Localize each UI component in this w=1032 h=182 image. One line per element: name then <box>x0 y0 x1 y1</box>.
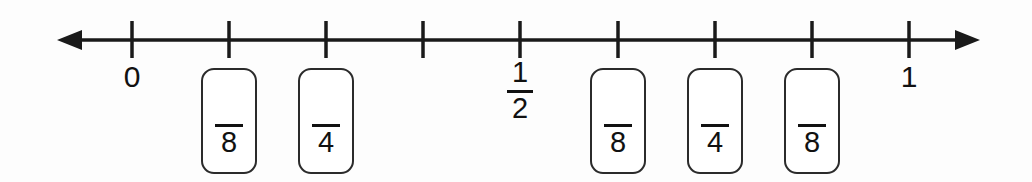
answer-box-2-denominator: 4 <box>318 128 334 158</box>
axis-label-one: 1 <box>901 62 918 92</box>
axis-label-one-half: 1 2 <box>507 58 533 123</box>
answer-box-5-numerator[interactable] <box>804 107 820 123</box>
answer-box-2-numerator[interactable] <box>318 107 334 123</box>
axis-label-zero: 0 <box>124 62 141 92</box>
axis-label-one-half-denominator: 2 <box>512 94 528 124</box>
answer-box-3-numerator[interactable] <box>610 107 626 123</box>
answer-box-4-numerator[interactable] <box>707 107 723 123</box>
answer-box-1[interactable]: 8 <box>201 68 257 174</box>
answer-box-3-fraction: 8 <box>604 107 632 158</box>
answer-box-3[interactable]: 8 <box>590 68 646 174</box>
answer-box-2[interactable]: 4 <box>298 68 354 174</box>
answer-box-5[interactable]: 8 <box>784 68 840 174</box>
answer-box-5-denominator: 8 <box>804 128 820 158</box>
answer-box-1-numerator[interactable] <box>221 107 237 123</box>
left-arrowhead-icon <box>57 30 82 50</box>
number-line-worksheet: 0 1 2 1 8 4 8 4 <box>0 0 1032 182</box>
answer-box-3-denominator: 8 <box>610 128 626 158</box>
answer-box-4-denominator: 4 <box>707 128 723 158</box>
answer-box-4-fraction: 4 <box>701 107 729 158</box>
answer-box-5-fraction: 8 <box>798 107 826 158</box>
answer-box-1-denominator: 8 <box>221 128 237 158</box>
answer-box-2-fraction: 4 <box>312 107 340 158</box>
answer-box-4[interactable]: 4 <box>687 68 743 174</box>
answer-box-1-fraction: 8 <box>215 107 243 158</box>
right-arrowhead-icon <box>955 30 980 50</box>
axis-label-one-half-numerator: 1 <box>512 58 528 88</box>
